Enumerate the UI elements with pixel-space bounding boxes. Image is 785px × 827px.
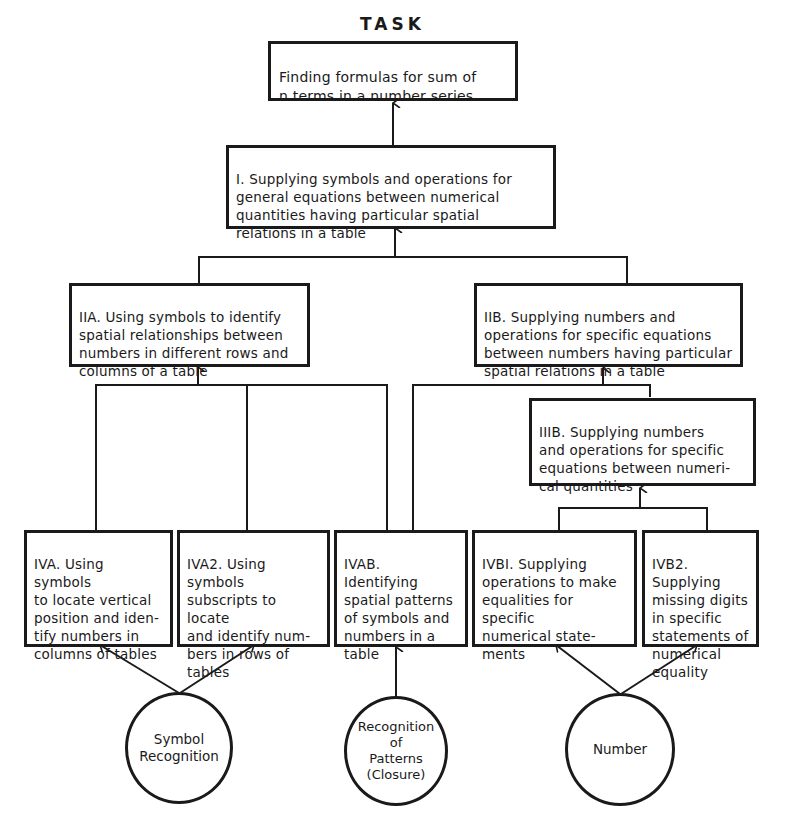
node-IIIB-text: IIIB. Supplying numbers and operations f… <box>539 424 730 494</box>
node-number: Number <box>565 693 675 806</box>
node-IIB-text: IIB. Supplying numbers and operations fo… <box>484 309 732 379</box>
node-pattern-recognition-text: Recognition of Patterns (Closure) <box>358 719 435 783</box>
node-I-text: I. Supplying symbols and operations for … <box>236 171 512 241</box>
node-task-text: Finding formulas for sum of n terms in a… <box>279 69 476 104</box>
edge-number-to-IVB1 <box>556 645 620 694</box>
node-pattern-recognition: Recognition of Patterns (Closure) <box>344 696 448 806</box>
node-symbol-recognition: Symbol Recognition <box>125 692 233 804</box>
node-IIIB: IIIB. Supplying numbers and operations f… <box>529 398 756 486</box>
node-IIB: IIB. Supplying numbers and operations fo… <box>474 283 743 367</box>
node-IVA: IVA. Using symbols to locate vertical po… <box>24 530 173 647</box>
diagram-title: TASK <box>0 14 785 34</box>
node-symbol-recognition-text: Symbol Recognition <box>139 731 219 765</box>
node-IVA-text: IVA. Using symbols to locate vertical po… <box>34 556 159 662</box>
node-IVB1: IVBI. Supplying operations to make equal… <box>472 530 637 647</box>
node-IVAB-text: IVAB. Identifying spatial patterns of sy… <box>344 556 453 662</box>
edge-IIIB-bracket <box>559 508 707 530</box>
node-IVB1-text: IVBI. Supplying operations to make equal… <box>482 556 617 662</box>
edge-IVA-bracket <box>96 385 387 530</box>
node-IVA2: IVA2. Using symbols subscripts to locate… <box>177 530 330 647</box>
node-IVAB: IVAB. Identifying spatial patterns of sy… <box>334 530 468 647</box>
node-number-text: Number <box>593 741 647 758</box>
node-IVA2-text: IVA2. Using symbols subscripts to locate… <box>187 556 310 680</box>
node-I: I. Supplying symbols and operations for … <box>226 145 556 229</box>
node-IIA: IIA. Using symbols to identify spatial r… <box>69 283 310 367</box>
node-IVB2-text: IVB2. Supplying missing digits in specif… <box>652 556 748 680</box>
node-task: Finding formulas for sum of n terms in a… <box>268 41 518 101</box>
node-IVB2: IVB2. Supplying missing digits in specif… <box>642 530 759 647</box>
node-IIA-text: IIA. Using symbols to identify spatial r… <box>79 309 289 379</box>
